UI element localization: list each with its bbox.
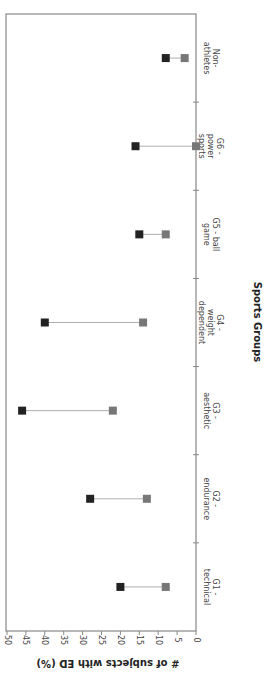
marker-dark	[135, 230, 143, 238]
tick-label: 5	[173, 637, 182, 642]
marker-dark	[86, 495, 94, 503]
value-axis-title: # of subjects with ED (%)	[37, 658, 180, 669]
marker-gray	[162, 230, 170, 238]
marker-dark	[132, 142, 140, 150]
tick-label: 35	[59, 635, 68, 645]
marker-dark	[18, 407, 26, 415]
tick-label: 15	[135, 635, 144, 645]
marker-dark	[41, 319, 49, 327]
tick-label: 0	[192, 637, 201, 642]
tick-label: 25	[97, 635, 106, 645]
tick-label: 50	[3, 635, 12, 645]
value-axis-ticks: 05101520253035404550	[3, 631, 201, 645]
category-label: G2 -endurance	[202, 477, 220, 520]
marker-gray	[181, 54, 189, 62]
dumbbell-chart: 05101520253035404550 G1 -technicalG2 -en…	[0, 0, 270, 674]
marker-dark	[116, 583, 124, 591]
category-label: G3 -aesthetic	[202, 392, 220, 429]
tick-label: 30	[78, 635, 87, 645]
marker-gray	[139, 319, 147, 327]
marker-gray	[143, 495, 151, 503]
category-label: G6 -powersports	[197, 134, 224, 159]
tick-label: 45	[21, 635, 30, 645]
category-label: G1 -technical	[202, 569, 220, 605]
marker-gray	[162, 583, 170, 591]
tick-label: 40	[40, 635, 49, 645]
tick-label: 10	[154, 635, 163, 645]
marker-dark	[162, 54, 170, 62]
data-points	[18, 54, 200, 591]
marker-gray	[192, 142, 200, 150]
category-label: G4 -weightdependent	[197, 301, 224, 344]
category-axis: G1 -technicalG2 -enduranceG3 -aestheticG…	[193, 42, 224, 605]
category-label: Non-athletes	[202, 42, 220, 74]
tick-label: 20	[116, 635, 125, 645]
category-label: G5 - ballgame	[202, 218, 220, 252]
marker-gray	[109, 407, 117, 415]
category-axis-title: Sports Groups	[252, 282, 263, 363]
